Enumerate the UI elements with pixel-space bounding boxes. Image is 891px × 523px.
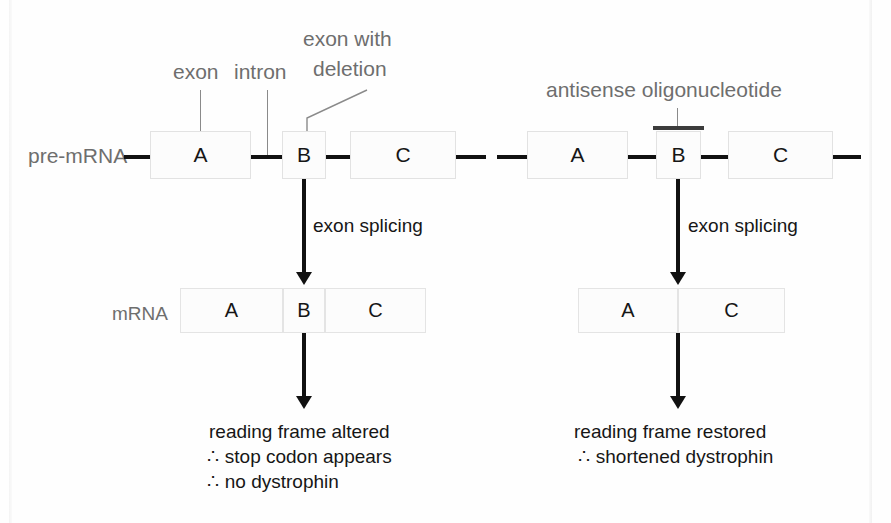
therefore-symbol-right-1: ∴ <box>578 446 591 467</box>
connector-left-leading <box>124 155 150 159</box>
connector-right-trailing <box>833 155 861 159</box>
process-label-splicing-left: exon splicing <box>313 215 423 237</box>
mrna-exon-b-left: B <box>283 288 325 333</box>
outcome-right-line1: reading frame restored <box>574 419 766 444</box>
outcome-arrow-shaft-left <box>302 333 306 403</box>
connector-left-intron-2 <box>326 155 350 159</box>
splicing-arrow-head-right <box>670 272 686 285</box>
callout-exon-with-deletion-line2: deletion <box>313 57 387 82</box>
connector-left-trailing <box>456 155 486 159</box>
process-label-splicing-right: exon splicing <box>688 215 798 237</box>
pre-mrna-exon-c-right: C <box>728 131 833 179</box>
splicing-arrow-shaft-right <box>676 179 680 279</box>
pre-mrna-exon-a-right: A <box>527 131 628 179</box>
row-label-mrna-left: mRNA <box>112 303 168 325</box>
mrna-exon-a-right: A <box>578 288 678 333</box>
outcome-right-line2-text: shortened dystrophin <box>596 446 773 467</box>
callout-antisense-label: antisense oligonucleotide <box>546 78 782 103</box>
outcome-right-line2: ∴ shortened dystrophin <box>578 444 773 469</box>
diagram-canvas: exon intron exon with deletion pre-mRNA … <box>0 0 891 523</box>
mrna-exon-c-right: C <box>678 288 785 333</box>
callout-exon-with-deletion-line1: exon with <box>303 27 392 52</box>
leader-line-intron <box>267 90 268 156</box>
pre-mrna-exon-c-left: C <box>350 131 456 179</box>
mrna-exon-c-left: C <box>325 288 426 333</box>
connector-right-intron-2 <box>701 155 728 159</box>
outcome-left-line2-text: stop codon appears <box>225 446 392 467</box>
outcome-arrow-head-right <box>670 396 686 409</box>
outcome-left-line3: ∴ no dystrophin <box>207 469 339 494</box>
row-label-pre-mrna: pre-mRNA <box>28 144 127 169</box>
outcome-arrow-shaft-right <box>676 333 680 403</box>
connector-right-leading <box>497 155 527 159</box>
scan-artifact-left-edge <box>9 0 12 523</box>
antisense-oligonucleotide-bar <box>653 126 704 130</box>
connector-right-intron-1 <box>628 155 656 159</box>
pre-mrna-exon-a-left: A <box>150 131 251 179</box>
callout-exon-label: exon <box>173 60 219 85</box>
scan-artifact-right-edge <box>869 0 872 523</box>
callout-intron-label: intron <box>234 60 287 85</box>
pre-mrna-exon-b-right: B <box>656 131 701 179</box>
pre-mrna-exon-b-left: B <box>282 131 326 179</box>
outcome-left-line3-text: no dystrophin <box>225 471 339 492</box>
outcome-arrow-head-left <box>296 396 312 409</box>
connector-left-intron-1 <box>251 155 282 159</box>
outcome-left-line1: reading frame altered <box>209 419 390 444</box>
splicing-arrow-head-left <box>296 272 312 285</box>
outcome-left-line2: ∴ stop codon appears <box>207 444 392 469</box>
therefore-symbol-left-1: ∴ <box>207 446 220 467</box>
splicing-arrow-shaft-left <box>302 179 306 279</box>
mrna-exon-a-left: A <box>180 288 283 333</box>
leader-line-antisense <box>677 108 678 128</box>
therefore-symbol-left-2: ∴ <box>207 471 220 492</box>
